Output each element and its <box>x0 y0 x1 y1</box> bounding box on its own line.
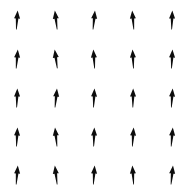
quiver-field-canvas <box>0 0 185 192</box>
quiver-plot-figure <box>0 0 185 192</box>
